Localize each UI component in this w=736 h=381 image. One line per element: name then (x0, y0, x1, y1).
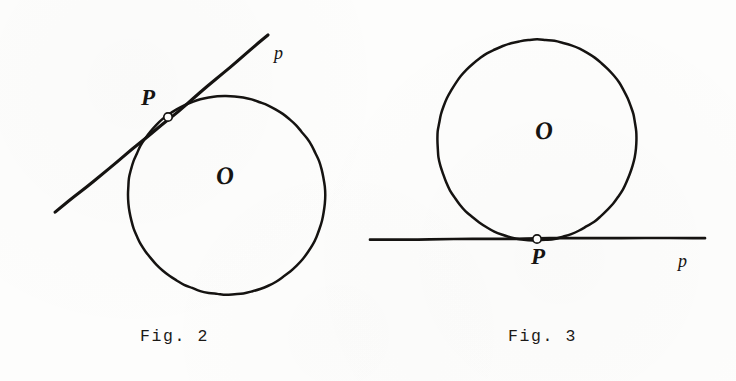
fig-3-center-label: O (534, 117, 555, 144)
fig-3-tangency-point-marker (533, 235, 541, 243)
figure-page: P p O Fig. 2 P p O Fig. 3 (0, 0, 736, 381)
fig-3-caption: Fig. 3 (508, 327, 577, 346)
fig-3-line-label: p (678, 252, 687, 270)
fig-3-point-label: P (531, 245, 546, 268)
figure-3-drawing (0, 0, 736, 381)
